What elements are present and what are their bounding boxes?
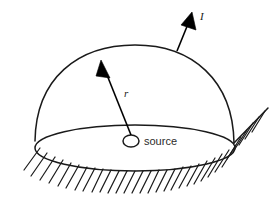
intensity-label: I (199, 10, 205, 22)
hemisphere-source-diagram: I r source (0, 0, 276, 209)
base-ellipse (35, 125, 235, 171)
radius-label: r (124, 87, 129, 99)
source-marker-icon (123, 135, 139, 147)
ground-line-right (234, 108, 268, 143)
dome-arc (35, 45, 234, 143)
source-label: source (144, 135, 177, 147)
intensity-arrow (177, 12, 196, 51)
diagram-canvas: I r source (0, 0, 276, 209)
